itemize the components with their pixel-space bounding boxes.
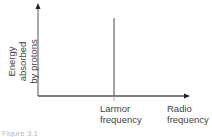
larmor-line2: frequency bbox=[100, 114, 142, 125]
radio-line1: Radio bbox=[167, 103, 209, 114]
y-axis-arrow-icon bbox=[36, 3, 41, 9]
y-axis-label-line1: Energy absorbed bbox=[6, 27, 28, 97]
radio-frequency-label: Radio frequency bbox=[167, 103, 209, 125]
larmor-frequency-label: Larmor frequency bbox=[100, 103, 142, 125]
larmor-line1: Larmor bbox=[100, 103, 142, 114]
radio-line2: frequency bbox=[167, 114, 209, 125]
y-axis-label-line2: by protons bbox=[28, 27, 39, 97]
y-axis-label: Energy absorbed by protons bbox=[6, 27, 39, 97]
figure-caption: Figure 3.1 bbox=[2, 129, 38, 137]
x-axis-arrow-icon bbox=[184, 94, 190, 99]
